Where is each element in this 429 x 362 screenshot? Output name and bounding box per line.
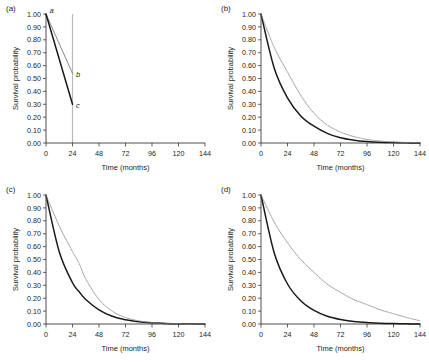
curve-dotted-curve xyxy=(261,195,420,321)
y-tick-label: 0.80 xyxy=(242,216,256,225)
x-tick-label: 48 xyxy=(95,330,103,339)
x-tick-label: 96 xyxy=(148,149,156,158)
x-tick-label: 24 xyxy=(69,330,77,339)
point-label-a: a xyxy=(50,6,54,15)
y-tick-label: 0.40 xyxy=(242,87,256,96)
x-tick-label: 24 xyxy=(69,149,77,158)
y-tick-label: 0.60 xyxy=(27,242,41,251)
y-tick-label: 0.50 xyxy=(242,74,256,83)
x-tick-label: 144 xyxy=(414,149,426,158)
x-tick-label: 24 xyxy=(284,330,292,339)
plot-area-d: 0.000.100.200.300.400.500.600.700.800.90… xyxy=(215,181,429,362)
point-label-c: c xyxy=(76,101,80,110)
x-tick-label: 48 xyxy=(310,330,318,339)
x-axis-title: Time (months) xyxy=(46,344,205,353)
y-tick-label: 0.50 xyxy=(27,255,41,264)
x-tick-label: 120 xyxy=(388,330,400,339)
plot-area-a: 0.000.100.200.300.400.500.600.700.800.90… xyxy=(0,0,214,181)
y-tick-label: 0.60 xyxy=(242,61,256,70)
panel-d: (d) 0.000.100.200.300.400.500.600.700.80… xyxy=(215,181,429,362)
plot-area-c: 0.000.100.200.300.400.500.600.700.800.90… xyxy=(0,181,214,362)
y-tick-label: 0.70 xyxy=(242,229,256,238)
y-tick-label: 0.30 xyxy=(27,100,41,109)
y-tick-label: 0.40 xyxy=(27,87,41,96)
y-tick-label: 0.70 xyxy=(242,48,256,57)
y-tick-label: 0.00 xyxy=(242,139,256,148)
x-tick-label: 72 xyxy=(337,149,345,158)
x-tick-label: 72 xyxy=(337,330,345,339)
y-tick-label: 0.80 xyxy=(27,35,41,44)
y-tick-label: 0.40 xyxy=(242,268,256,277)
y-tick-label: 0.30 xyxy=(242,100,256,109)
y-tick-label: 0.20 xyxy=(242,294,256,303)
x-tick-label: 144 xyxy=(199,330,211,339)
x-tick-label: 0 xyxy=(44,149,48,158)
y-tick-label: 0.10 xyxy=(27,126,41,135)
y-tick-label: 1.00 xyxy=(27,10,41,19)
curve-dotted-curve xyxy=(46,195,205,324)
y-tick-label: 0.00 xyxy=(27,320,41,329)
y-tick-label: 0.30 xyxy=(27,281,41,290)
y-tick-label: 0.90 xyxy=(27,23,41,32)
y-tick-label: 0.60 xyxy=(27,61,41,70)
curve-lower-segment xyxy=(46,14,73,104)
x-tick-label: 120 xyxy=(173,149,185,158)
y-tick-label: 0.60 xyxy=(242,242,256,251)
x-tick-label: 120 xyxy=(388,149,400,158)
y-tick-label: 0.00 xyxy=(242,320,256,329)
y-tick-label: 0.10 xyxy=(242,307,256,316)
point-label-b: b xyxy=(76,70,80,79)
plot-area-b: 0.000.100.200.300.400.500.600.700.800.90… xyxy=(215,0,429,181)
y-tick-label: 0.50 xyxy=(27,74,41,83)
y-axis-title: Survival probability xyxy=(11,195,20,324)
x-tick-label: 96 xyxy=(363,149,371,158)
y-tick-label: 1.00 xyxy=(242,191,256,200)
y-tick-label: 1.00 xyxy=(242,10,256,19)
x-tick-label: 96 xyxy=(148,330,156,339)
curve-solid-curve xyxy=(261,195,420,324)
panel-c: (c) 0.000.100.200.300.400.500.600.700.80… xyxy=(0,181,214,362)
x-tick-label: 144 xyxy=(414,330,426,339)
x-tick-label: 0 xyxy=(259,149,263,158)
y-tick-label: 0.70 xyxy=(27,229,41,238)
x-tick-label: 48 xyxy=(95,149,103,158)
y-tick-label: 0.20 xyxy=(27,294,41,303)
x-tick-label: 0 xyxy=(259,330,263,339)
x-tick-label: 144 xyxy=(199,149,211,158)
y-tick-label: 0.10 xyxy=(27,307,41,316)
x-tick-label: 0 xyxy=(44,330,48,339)
curve-dotted-curve xyxy=(261,14,420,143)
y-tick-label: 0.20 xyxy=(242,113,256,122)
y-tick-label: 0.90 xyxy=(27,204,41,213)
curve-upper-segment xyxy=(46,14,73,73)
panel-b: (b) 0.000.100.200.300.400.500.600.700.80… xyxy=(215,0,429,181)
y-axis-title: Survival probability xyxy=(226,195,235,324)
x-axis-title: Time (months) xyxy=(46,163,205,172)
curve-solid-curve xyxy=(46,195,205,324)
y-tick-label: 0.80 xyxy=(27,216,41,225)
x-tick-label: 48 xyxy=(310,149,318,158)
y-tick-label: 0.90 xyxy=(242,23,256,32)
x-tick-label: 120 xyxy=(173,330,185,339)
y-tick-label: 0.90 xyxy=(242,204,256,213)
y-axis-title: Survival probability xyxy=(11,14,20,143)
y-tick-label: 0.40 xyxy=(27,268,41,277)
x-tick-label: 72 xyxy=(122,149,130,158)
y-tick-label: 0.20 xyxy=(27,113,41,122)
survival-probability-figure: (a) 0.000.100.200.300.400.500.600.700.80… xyxy=(0,0,429,362)
x-axis-title: Time (months) xyxy=(261,344,420,353)
y-tick-label: 0.50 xyxy=(242,255,256,264)
x-tick-label: 24 xyxy=(284,149,292,158)
curve-solid-curve xyxy=(261,14,420,143)
panel-a: (a) 0.000.100.200.300.400.500.600.700.80… xyxy=(0,0,214,181)
y-tick-label: 0.10 xyxy=(242,126,256,135)
y-tick-label: 1.00 xyxy=(27,191,41,200)
y-tick-label: 0.80 xyxy=(242,35,256,44)
x-axis-title: Time (months) xyxy=(261,163,420,172)
x-tick-label: 72 xyxy=(122,330,130,339)
x-tick-label: 96 xyxy=(363,330,371,339)
y-tick-label: 0.00 xyxy=(27,139,41,148)
y-tick-label: 0.70 xyxy=(27,48,41,57)
y-tick-label: 0.30 xyxy=(242,281,256,290)
y-axis-title: Survival probability xyxy=(226,14,235,143)
